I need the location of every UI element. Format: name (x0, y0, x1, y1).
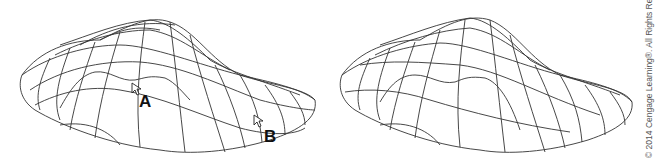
cursor-arrow-icon (253, 114, 265, 128)
label-b: B (264, 127, 276, 147)
label-a: A (139, 92, 151, 112)
surface-wireframe-right (320, 0, 640, 166)
copyright-notice: © 2014 Cengage Learning®. All Rights Res… (644, 0, 654, 158)
wireframe-right-svg (320, 0, 640, 166)
wireframe-left-svg (0, 0, 330, 166)
surface-wireframe-left: A B (0, 0, 330, 166)
